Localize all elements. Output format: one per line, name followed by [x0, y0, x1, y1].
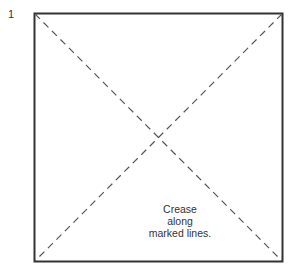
caption-line: Crease	[130, 203, 230, 215]
caption-line: marked lines.	[130, 227, 230, 239]
caption-line: along	[130, 215, 230, 227]
instruction-caption: Crease along marked lines.	[130, 203, 230, 239]
